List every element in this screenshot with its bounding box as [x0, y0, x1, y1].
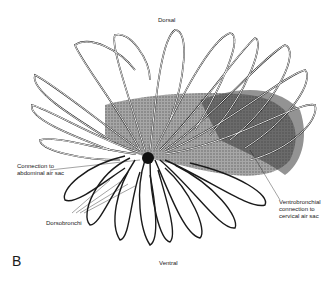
ventral-label: Ventral — [159, 260, 178, 267]
bronchi-drawing — [0, 0, 336, 281]
panel-letter: B — [12, 253, 21, 269]
connection-abdominal-air-sac-label: Connection to abdominal air sac — [17, 163, 64, 177]
dorsal-label: Dorsal — [158, 17, 175, 24]
dorsobronchi-label: Dorsobronchi — [46, 220, 82, 227]
diagram-figure: Dorsal Connection to abdominal air sac D… — [0, 0, 336, 281]
ventrobronchial-connection-label: Ventrobronchial connection to cervical a… — [279, 199, 321, 220]
